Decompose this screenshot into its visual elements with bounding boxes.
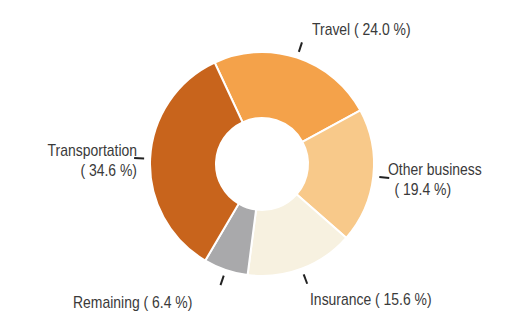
label-travel: Travel ( 24.0 %) — [312, 20, 411, 40]
label-travel-text: Travel ( 24.0 %) — [312, 20, 411, 39]
label-insurance-text: Insurance ( 15.6 %) — [310, 290, 432, 309]
label-insurance: Insurance ( 15.6 %) — [310, 290, 432, 310]
label-remaining-text: Remaining ( 6.4 %) — [73, 293, 192, 312]
label-transportation-value: ( 34.6 %) — [48, 161, 137, 181]
label-remaining: Remaining ( 6.4 %) — [73, 293, 192, 313]
tick-remaining — [220, 276, 223, 285]
label-transportation-name: Transportation — [48, 141, 137, 161]
label-other-business-value: ( 19.4 %) — [388, 180, 482, 200]
tick-insurance — [304, 274, 308, 283]
label-other-business: Other business ( 19.4 %) — [388, 160, 482, 200]
label-transportation: Transportation ( 34.6 %) — [48, 141, 137, 181]
label-other-business-name: Other business — [388, 160, 482, 180]
tick-travel — [299, 42, 302, 51]
donut-slices — [150, 52, 374, 276]
